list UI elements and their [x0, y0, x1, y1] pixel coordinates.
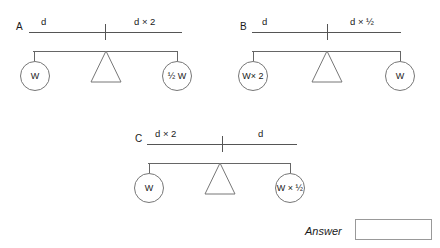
- ruler-left-distance-label: d: [41, 17, 46, 27]
- right-weight-label: W: [396, 72, 405, 81]
- right-weight-pan: ½ W: [162, 61, 192, 91]
- fulcrum-triangle-icon: [203, 162, 237, 196]
- left-hanger: [253, 51, 254, 61]
- left-weight-label: W× 2: [242, 72, 263, 81]
- right-weight-label: W × ½: [277, 184, 303, 193]
- ruler-right-distance-label: d: [258, 129, 263, 139]
- left-weight-pan: W: [20, 61, 50, 91]
- ruler-left-distance-label: d: [262, 17, 267, 27]
- fulcrum-triangle-icon: [310, 50, 344, 84]
- left-weight-pan: W: [134, 173, 164, 203]
- right-weight-pan: W: [385, 61, 415, 91]
- left-weight-pan: W× 2: [238, 61, 268, 91]
- right-weight-label: ½ W: [168, 72, 187, 81]
- panel-c-letter: C: [135, 134, 142, 144]
- right-weight-pan: W × ½: [275, 173, 305, 203]
- left-hanger: [149, 163, 150, 173]
- left-weight-label: W: [145, 184, 154, 193]
- ruler-midpoint-tick: [105, 24, 106, 40]
- left-weight-label: W: [31, 72, 40, 81]
- panel-b-letter: B: [240, 22, 247, 32]
- answer-input[interactable]: [355, 219, 432, 240]
- panel-a-letter: A: [16, 22, 23, 32]
- ruler-midpoint-tick: [222, 136, 223, 152]
- ruler-right-distance-label: d × ½: [350, 17, 374, 27]
- ruler-right-distance-label: d × 2: [134, 17, 155, 27]
- left-hanger: [34, 51, 35, 61]
- fulcrum-triangle-icon: [89, 50, 123, 84]
- right-hanger: [177, 51, 178, 61]
- answer-label: Answer: [305, 225, 342, 237]
- right-hanger: [290, 163, 291, 173]
- ruler-left-distance-label: d × 2: [155, 129, 176, 139]
- right-hanger: [400, 51, 401, 61]
- ruler-midpoint-tick: [327, 24, 328, 40]
